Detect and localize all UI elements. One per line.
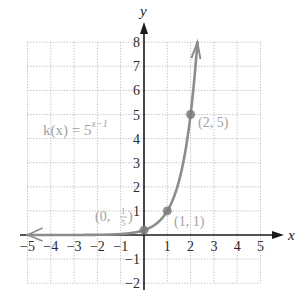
y-tick-label: 8 bbox=[133, 35, 140, 50]
axes: x y bbox=[20, 3, 295, 290]
x-tick-label: −4 bbox=[43, 239, 58, 254]
x-tick-label: 5 bbox=[257, 239, 264, 254]
fraction-numerator: 1 bbox=[121, 206, 126, 216]
x-axis-label: x bbox=[287, 227, 295, 243]
exponential-function-graph: x y −5−4−3−2−112345 −2−112345678 (0, 1 5… bbox=[0, 0, 308, 304]
x-tick-label: −2 bbox=[90, 239, 105, 254]
y-tick-label: 4 bbox=[133, 132, 140, 147]
x-tick-label: 2 bbox=[187, 239, 194, 254]
y-tick-label: 7 bbox=[133, 59, 140, 74]
point-label-2-5: (2, 5) bbox=[198, 115, 229, 131]
y-tick-label: 1 bbox=[133, 204, 140, 219]
fraction-denominator: 5 bbox=[121, 218, 126, 228]
point-marker bbox=[163, 206, 172, 215]
x-tick-labels: −5−4−3−2−112345 bbox=[20, 239, 264, 254]
point-marker bbox=[140, 226, 149, 235]
point-marker bbox=[186, 110, 195, 119]
x-tick-label: 1 bbox=[164, 239, 171, 254]
y-tick-label: 6 bbox=[133, 83, 140, 98]
y-axis-arrow-icon bbox=[140, 22, 148, 34]
point-label-0-fifth: (0, bbox=[95, 209, 110, 225]
point-label-1-1: (1, 1) bbox=[174, 214, 205, 230]
y-tick-label: 2 bbox=[133, 180, 140, 195]
x-tick-label: 3 bbox=[210, 239, 217, 254]
function-label: k(x) = 5x−1 bbox=[43, 118, 108, 139]
point-label-paren: ) bbox=[128, 209, 133, 225]
y-tick-label: 5 bbox=[133, 108, 140, 123]
y-tick-labels: −2−112345678 bbox=[125, 35, 140, 291]
y-axis-label: y bbox=[138, 3, 147, 19]
x-axis-arrow-icon bbox=[272, 231, 284, 239]
x-tick-label: −3 bbox=[67, 239, 82, 254]
y-tick-label: 3 bbox=[133, 156, 140, 171]
x-tick-label: 4 bbox=[234, 239, 241, 254]
y-tick-label: −1 bbox=[125, 252, 140, 267]
x-tick-label: −5 bbox=[20, 239, 35, 254]
y-tick-label: −2 bbox=[125, 276, 140, 291]
